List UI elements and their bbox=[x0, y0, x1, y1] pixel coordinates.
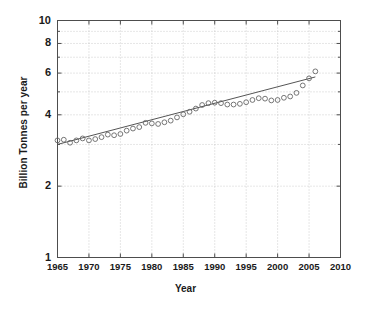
y-tick-label: 6 bbox=[29, 66, 51, 78]
y-tick-label: 2 bbox=[29, 179, 51, 191]
y-tick-label: 4 bbox=[29, 108, 51, 120]
x-axis-label: Year bbox=[0, 283, 371, 294]
x-tick-label: 2010 bbox=[321, 261, 361, 272]
y-tick-label: 1 bbox=[29, 251, 51, 263]
y-tick-label: 10 bbox=[29, 14, 51, 26]
data-points bbox=[55, 69, 318, 145]
y-axis-label: Billion Tonnes per year bbox=[18, 53, 29, 213]
y-tick-label: 8 bbox=[29, 36, 51, 48]
trend-line bbox=[58, 77, 316, 144]
